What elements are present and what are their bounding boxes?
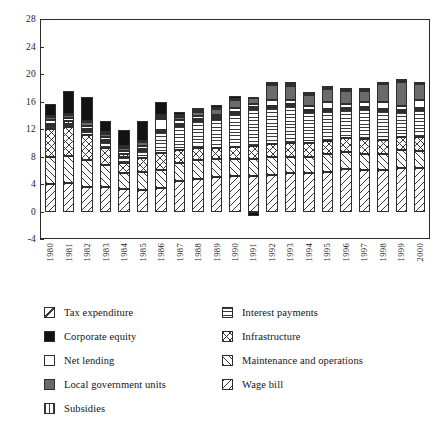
segment-interest-payments (100, 142, 111, 148)
x-tick-1991: 1991 (248, 243, 258, 261)
bar-1997 (359, 19, 370, 239)
x-tick-1990: 1990 (230, 243, 240, 261)
segment-wage-bill (414, 168, 425, 212)
legend-item-net-lending[interactable]: Net lending (44, 348, 166, 372)
legend-item-corporate-equity[interactable]: Corporate equity (44, 324, 166, 348)
segment-corporate-equity (63, 91, 74, 114)
segment-tax-expenditure (155, 115, 166, 117)
segment-local-government-units (285, 86, 296, 100)
bar-2000 (414, 19, 425, 239)
legend-item-tax-expenditure[interactable]: Tax expenditure (44, 300, 166, 324)
x-tick-1992: 1992 (267, 243, 277, 261)
segment-tax-expenditure (248, 97, 259, 99)
segment-infrastructure (137, 158, 148, 172)
segment-infrastructure (377, 140, 388, 154)
segment-maintenance-and-operations (340, 152, 351, 169)
y-tick-24: 24 (12, 42, 36, 52)
segment-net-lending (137, 146, 148, 149)
segment-subsidies (174, 124, 185, 126)
segment-subsidies (359, 107, 370, 109)
legend-item-subsidies[interactable]: Subsidies (44, 396, 166, 420)
legend-label: Wage bill (242, 379, 283, 390)
legend-swatch-icon (44, 331, 55, 342)
y-tickmark-20 (40, 74, 44, 75)
segment-wage-bill (63, 183, 74, 211)
bar-1982 (81, 19, 92, 239)
legend-label: Corporate equity (64, 331, 136, 342)
segment-tax-expenditure (137, 141, 148, 143)
segment-maintenance-and-operations (192, 160, 203, 179)
y-tick-8: 8 (12, 152, 36, 162)
segment-subsidies (340, 108, 351, 110)
legend-item-interest-payments[interactable]: Interest payments (222, 300, 363, 324)
segment-interest-payments (45, 126, 56, 129)
segment-corporate-equity (155, 102, 166, 116)
segment-infrastructure (211, 148, 222, 159)
segment-subsidies (248, 107, 259, 109)
x-tick-1994: 1994 (304, 243, 314, 261)
segment-infrastructure (359, 139, 370, 153)
segment-interest-payments (248, 109, 259, 146)
segment-tax-expenditure (63, 114, 74, 116)
legend-label: Maintenance and operations (242, 355, 363, 366)
segment-interest-payments (377, 111, 388, 140)
segment-infrastructure (45, 129, 56, 157)
x-tick-1982: 1982 (82, 243, 92, 261)
segment-subsidies (137, 149, 148, 151)
segment-subsidies (303, 110, 314, 112)
bar-1991 (248, 19, 259, 239)
segment-maintenance-and-operations (359, 154, 370, 171)
segment-corporate-equity (359, 88, 370, 90)
segment-wage-bill (100, 187, 111, 212)
legend-item-wage-bill[interactable]: Wage bill (222, 372, 363, 396)
y-tickmark-12 (40, 129, 44, 130)
y-tick-4: 4 (12, 179, 36, 189)
legend-item-maintenance-and-operations[interactable]: Maintenance and operations (222, 348, 363, 372)
x-tick-1988: 1988 (193, 243, 203, 261)
bar-1996 (340, 19, 351, 239)
legend-item-infrastructure[interactable]: Infrastructure (222, 324, 363, 348)
segment-maintenance-and-operations (396, 150, 407, 168)
bar-1995 (322, 19, 333, 239)
segment-net-lending (248, 104, 259, 107)
segment-tax-expenditure (45, 116, 56, 118)
segment-local-government-units (303, 95, 314, 106)
segment-net-lending (81, 126, 92, 129)
segment-subsidies (211, 117, 222, 119)
x-tick-1980: 1980 (45, 243, 55, 261)
segment-subsidies (100, 140, 111, 142)
segment-local-government-units (377, 84, 388, 101)
segment-corporate-equity (229, 96, 240, 99)
legend-label: Interest payments (242, 307, 318, 318)
segment-local-government-units (396, 82, 407, 107)
segment-net-lending (322, 102, 333, 109)
segment-net-lending (118, 151, 129, 154)
segment-net-lending (63, 118, 74, 121)
segment-interest-payments (137, 151, 148, 158)
legend-label: Net lending (64, 355, 114, 366)
segment-infrastructure (414, 137, 425, 151)
segment-net-lending (377, 102, 388, 110)
segment-interest-payments (229, 114, 240, 147)
segment-infrastructure (81, 135, 92, 160)
segment-maintenance-and-operations (137, 172, 148, 190)
segment-subsidies (285, 104, 296, 106)
segment-corporate-equity (45, 104, 56, 116)
y-tick-12: 12 (12, 124, 36, 134)
legend-label: Local government units (64, 379, 166, 390)
legend-item-local-government-units[interactable]: Local government units (44, 372, 166, 396)
segment-net-lending (229, 108, 240, 111)
segment-interest-payments (155, 132, 166, 153)
bar-1993 (285, 19, 296, 239)
y-tickmark-0 (40, 212, 44, 213)
segment-maintenance-and-operations (45, 157, 56, 184)
segment-local-government-units (266, 85, 277, 100)
segment-corporate-equity (414, 82, 425, 84)
bar-1994 (303, 19, 314, 239)
x-tick-1996: 1996 (341, 243, 351, 261)
segment-local-government-units (414, 84, 425, 100)
segment-net-lending (155, 119, 166, 130)
segment-tax-expenditure (118, 146, 129, 148)
segment-infrastructure (100, 148, 111, 166)
segment-subsidies (396, 110, 407, 112)
